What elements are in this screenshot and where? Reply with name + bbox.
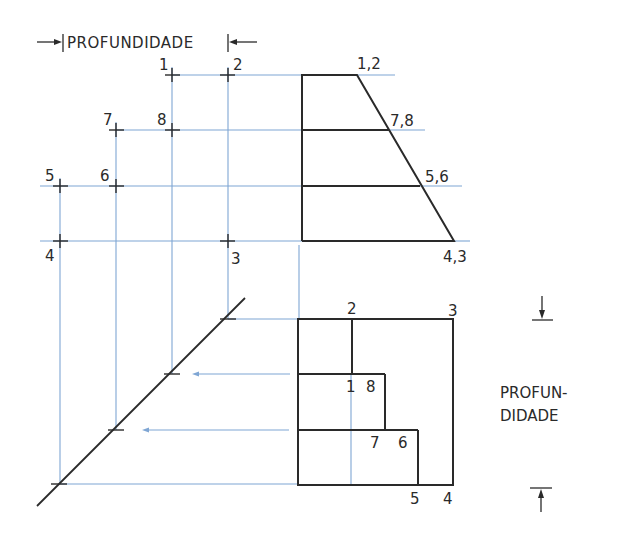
point-label-8: 8 (157, 111, 167, 129)
front-label-78: 7,8 (390, 112, 414, 130)
projection-diagram: PROFUNDIDADE (0, 0, 623, 544)
top-view-outline (298, 319, 453, 485)
top-view: 2 3 1 8 7 6 5 4 (298, 300, 458, 508)
left-reference-points: 1 2 7 8 5 6 4 3 (45, 56, 243, 268)
miter-line (37, 298, 245, 506)
point-label-6: 6 (100, 167, 110, 185)
front-label-56: 5,6 (425, 168, 449, 186)
side-depth-label-line2: DIDADE (500, 407, 559, 425)
top-label-4: 4 (443, 490, 453, 508)
projection-arrowhead-icon (192, 372, 199, 377)
point-label-1: 1 (159, 56, 169, 74)
front-view-outline (302, 75, 454, 241)
top-label-3: 3 (448, 302, 458, 320)
side-depth-dimension: PROFUN- DIDADE (500, 296, 568, 512)
point-label-7: 7 (103, 111, 113, 129)
top-depth-label: PROFUNDIDADE (67, 34, 194, 52)
top-label-8: 8 (366, 378, 376, 396)
front-label-43: 4,3 (443, 248, 467, 266)
front-label-12: 1,2 (357, 55, 381, 73)
point-label-5: 5 (45, 167, 55, 185)
point-label-2: 2 (233, 56, 243, 74)
point-label-4: 4 (45, 247, 55, 265)
projection-arrowhead-icon (142, 428, 149, 433)
point-label-3: 3 (231, 250, 241, 268)
side-depth-label-line1: PROFUN- (500, 384, 568, 402)
top-label-7: 7 (370, 434, 380, 452)
left-arrowhead-icon (54, 39, 62, 45)
top-label-2: 2 (347, 300, 357, 318)
top-label-5: 5 (410, 490, 420, 508)
top-label-6: 6 (398, 434, 408, 452)
top-label-1: 1 (346, 378, 356, 396)
top-depth-dimension: PROFUNDIDADE (37, 34, 257, 52)
down-arrowhead-icon (539, 310, 545, 319)
front-view: 1,2 7,8 5,6 4,3 (302, 55, 467, 266)
